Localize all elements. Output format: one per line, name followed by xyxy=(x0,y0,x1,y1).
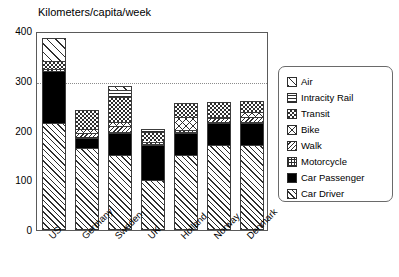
y-axis: 0100200300400 xyxy=(0,0,34,277)
bar-uk[interactable] xyxy=(141,31,165,230)
bar-segment-sweden-transit xyxy=(108,97,132,122)
legend-item-motorcycle[interactable]: Motorcycle xyxy=(287,154,392,169)
legend-swatch-icon-car-passenger xyxy=(287,173,297,183)
bar-denmark[interactable] xyxy=(240,31,264,230)
legend-label: Bike xyxy=(301,125,319,135)
legend-swatch-icon-air xyxy=(287,77,297,87)
bar-segment-sweden-car-passenger xyxy=(108,133,132,155)
legend-swatch-icon-bike xyxy=(287,125,297,135)
bar-segment-holland-bike xyxy=(174,117,198,129)
bar-segment-sweden-air xyxy=(108,86,132,90)
bar-segment-uk-intracity-rail xyxy=(141,129,165,132)
legend-item-walk[interactable]: Walk xyxy=(287,138,392,153)
legend-item-car-passenger[interactable]: Car Passenger xyxy=(287,170,392,185)
bar-segment-sweden-bike xyxy=(108,122,132,126)
bar-segment-sweden-intracity-rail xyxy=(108,90,132,97)
bar-segment-uk-walk xyxy=(141,142,165,144)
bar-segment-norway-bike xyxy=(207,117,231,119)
legend-swatch-icon-transit xyxy=(287,109,297,119)
legend: AirIntracity RailTransitBikeWalkMotorcyc… xyxy=(278,66,393,202)
bar-segment-us-car-passenger xyxy=(42,71,66,123)
bar-segment-germany-transit xyxy=(75,110,99,129)
bar-segment-denmark-bike xyxy=(240,112,264,117)
legend-label: Transit xyxy=(301,109,330,119)
bar-segment-germany-bike xyxy=(75,129,99,133)
legend-label: Air xyxy=(301,77,313,87)
legend-swatch-icon-walk xyxy=(287,141,297,151)
bar-segment-uk-car-passenger xyxy=(141,145,165,180)
bar-us[interactable] xyxy=(42,31,66,230)
bar-segment-sweden-motorcycle xyxy=(108,132,132,134)
bar-segment-uk-car-driver xyxy=(141,180,165,230)
y-tick-label-400: 400 xyxy=(15,27,32,37)
bar-segment-norway-walk xyxy=(207,118,231,122)
bar-segment-holland-transit xyxy=(174,103,198,117)
legend-swatch-icon-intracity-rail xyxy=(287,93,297,103)
bar-segment-denmark-car-passenger xyxy=(240,123,264,145)
plot-area xyxy=(36,32,268,231)
legend-label: Motorcycle xyxy=(301,157,347,167)
y-tick-label-0: 0 xyxy=(26,226,32,236)
bar-segment-us-walk xyxy=(42,69,66,71)
legend-item-intracity-rail[interactable]: Intracity Rail xyxy=(287,90,392,105)
legend-item-air[interactable]: Air xyxy=(287,74,392,89)
chart-page: Kilometers/capita/week 0100200300400 USG… xyxy=(0,0,399,277)
bar-germany[interactable] xyxy=(75,31,99,230)
bar-segment-norway-car-passenger xyxy=(207,123,231,145)
bar-norway[interactable] xyxy=(207,31,231,230)
legend-label: Intracity Rail xyxy=(301,93,353,103)
bar-segment-germany-walk xyxy=(75,133,99,137)
bar-sweden[interactable] xyxy=(108,31,132,230)
x-axis: USGermanySwedenUKHollandNorwayDenmark xyxy=(36,231,268,277)
legend-item-bike[interactable]: Bike xyxy=(287,122,392,137)
chart-title: Kilometers/capita/week xyxy=(38,6,151,19)
legend-label: Car Driver xyxy=(301,189,344,199)
bar-segment-sweden-walk xyxy=(108,126,132,132)
bar-segment-uk-transit xyxy=(141,132,165,141)
bar-segment-holland-walk xyxy=(174,130,198,132)
legend-swatch-icon-car-driver xyxy=(287,189,297,199)
bar-segment-denmark-transit xyxy=(240,101,264,112)
y-tick-label-200: 200 xyxy=(15,127,32,137)
y-tick-label-100: 100 xyxy=(15,176,32,186)
bar-segment-germany-car-passenger xyxy=(75,138,99,148)
legend-item-transit[interactable]: Transit xyxy=(287,106,392,121)
legend-label: Car Passenger xyxy=(301,173,364,183)
bar-segment-denmark-walk xyxy=(240,117,264,122)
plot-inner xyxy=(37,33,267,230)
bar-holland[interactable] xyxy=(174,31,198,230)
bar-segment-us-transit xyxy=(42,61,66,69)
legend-item-car-driver[interactable]: Car Driver xyxy=(287,186,392,201)
legend-rows: AirIntracity RailTransitBikeWalkMotorcyc… xyxy=(287,74,392,201)
legend-label: Walk xyxy=(301,141,322,151)
bar-segment-holland-car-passenger xyxy=(174,133,198,155)
bar-segment-norway-transit xyxy=(207,102,231,117)
bar-segment-us-car-driver xyxy=(42,123,66,230)
y-tick-label-300: 300 xyxy=(15,77,32,87)
legend-swatch-icon-motorcycle xyxy=(287,157,297,167)
bar-segment-us-air xyxy=(42,38,66,60)
